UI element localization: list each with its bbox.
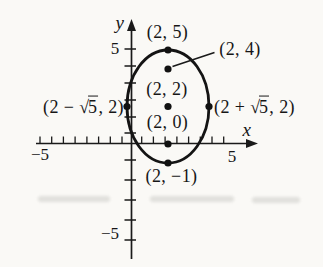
label-left-covertex-radicand: 5 — [88, 96, 98, 116]
label-left-covertex-pre: (2 − √ — [43, 97, 89, 117]
y-axis-arrowhead-icon — [127, 19, 136, 31]
label-right-covertex-pre: (2 + √ — [214, 97, 260, 117]
y-axis-tick-label-neg5: −5 — [101, 225, 119, 243]
y-axis-tick-label-5: 5 — [111, 40, 120, 58]
label-top-vertex: (2, 5) — [147, 23, 188, 42]
label-left-covertex-post: , 2) — [98, 97, 124, 117]
x-axis-tick-label-neg5: −5 — [31, 146, 49, 164]
point-lower-focus — [164, 140, 171, 147]
scan-artifact — [150, 196, 234, 202]
y-axis-label: y — [116, 13, 125, 33]
label-center: (2, 2) — [146, 80, 187, 99]
x-axis-label: x — [243, 120, 252, 140]
label-upper-focus: (2, 4) — [219, 40, 260, 59]
point-center — [164, 103, 171, 110]
x-axis-tick-label-5: 5 — [228, 148, 237, 166]
leader-line-upper-focus — [173, 53, 215, 67]
point-top-vertex — [164, 46, 171, 53]
label-left-covertex: (2 − √5, 2) — [43, 96, 124, 117]
point-left-covertex — [123, 103, 130, 110]
label-right-covertex-post: , 2) — [269, 97, 295, 117]
label-bottom-vertex: (2, −1) — [146, 167, 198, 186]
point-right-covertex — [205, 103, 212, 110]
y-axis-ticks — [125, 49, 137, 240]
x-axis-arrowhead-icon — [246, 139, 258, 148]
scan-artifact — [252, 197, 300, 203]
point-upper-focus — [164, 65, 171, 72]
label-right-covertex-radicand: 5 — [259, 96, 269, 116]
label-lower-focus: (2, 0) — [147, 113, 188, 132]
scan-artifact — [38, 196, 110, 202]
figure: y x 5 −5 −5 5 (2, 5) (2, 4) (2, 2) (2, 0… — [0, 0, 323, 267]
label-right-covertex: (2 + √5, 2) — [214, 96, 295, 117]
